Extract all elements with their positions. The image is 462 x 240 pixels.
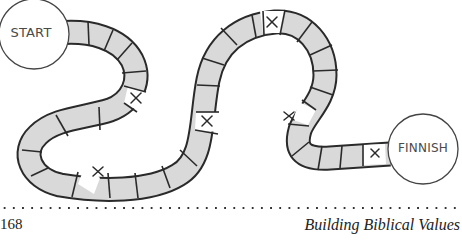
x-mark-icon <box>93 167 103 176</box>
game-board-path <box>0 0 462 205</box>
x-mark-icon <box>284 112 294 120</box>
page-number: 168 <box>0 216 23 233</box>
start-label: START <box>0 25 62 40</box>
dotted-divider <box>0 207 462 209</box>
finish-label: FINNISH <box>388 141 458 155</box>
path-band <box>29 22 390 190</box>
book-title: Building Biblical Values <box>304 216 460 234</box>
